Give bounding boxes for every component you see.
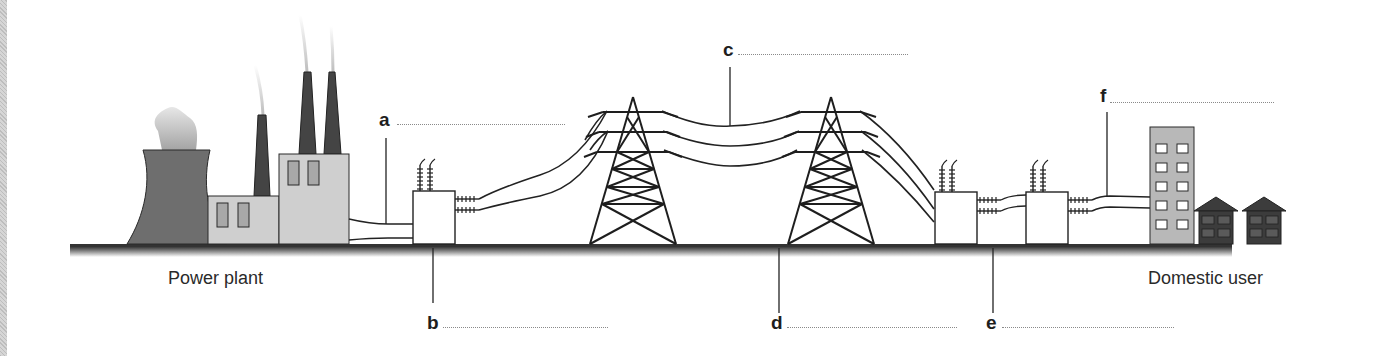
label-e: e [986, 313, 997, 332]
distribution-cable [1092, 196, 1150, 211]
answer-blank-c[interactable] [738, 54, 908, 55]
step-up-transformer [413, 159, 479, 244]
label-f: f [1100, 86, 1106, 105]
step-down-transformer-2 [1026, 160, 1092, 244]
power-plant-illustration [127, 15, 349, 244]
ground [70, 244, 1232, 257]
inter-transformer-cable [1001, 195, 1026, 211]
overhead-transmission-lines [479, 111, 934, 222]
step-down-transformer-1 [935, 160, 1001, 244]
pylon-right [782, 97, 880, 244]
label-b: b [427, 313, 439, 332]
leader-lines [386, 67, 1107, 313]
answer-blank-b[interactable] [443, 327, 608, 328]
answer-blank-f[interactable] [1110, 102, 1274, 103]
label-c: c [723, 40, 734, 59]
domestic-user-buildings [1150, 127, 1286, 244]
caption-power-plant: Power plant [168, 269, 263, 287]
answer-blank-e[interactable] [1002, 327, 1174, 328]
answer-blank-d[interactable] [787, 327, 957, 328]
answer-blank-a[interactable] [397, 124, 565, 125]
power-transmission-scene [0, 0, 1393, 356]
label-a: a [379, 110, 390, 129]
label-d: d [771, 313, 783, 332]
caption-domestic-user: Domestic user [1148, 269, 1263, 287]
plant-to-transformer-cable [349, 219, 413, 240]
